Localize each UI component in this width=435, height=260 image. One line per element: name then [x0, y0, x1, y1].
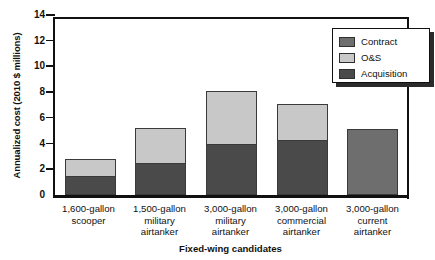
y-axis-title: Annualized cost (2010 $ millions) [11, 6, 22, 206]
x-axis-tick-label: 3,000-galloncommercialairtanker [266, 203, 337, 238]
bar-column[interactable] [126, 18, 197, 195]
x-axis-tick-label-line: commercial [266, 215, 337, 227]
x-axis-tick-label-line: current [337, 215, 408, 227]
legend-swatch-icon [339, 53, 355, 63]
bar-segment-acquisition[interactable] [277, 140, 328, 195]
y-axis-tick-mark [46, 40, 55, 42]
y-axis-tick-label: 10 [21, 59, 45, 72]
bar-segment-acquisition[interactable] [135, 163, 186, 195]
stacked-bar[interactable] [277, 104, 328, 195]
legend-swatch-icon [339, 37, 355, 47]
bar-segment-acquisition[interactable] [65, 176, 116, 195]
bar-chart: Annualized cost (2010 $ millions) 024681… [0, 0, 435, 260]
y-axis-tick-label: 14 [21, 8, 45, 21]
x-axis-tick-label-line: military [195, 215, 266, 227]
legend-item[interactable]: Contract [339, 34, 429, 49]
bar-segment-contract[interactable] [347, 129, 398, 195]
x-axis-tick-label-line: 1,500-gallon [124, 203, 195, 215]
x-axis-tick-label-line: airtanker [124, 226, 195, 238]
y-axis-tick-label: 2 [21, 162, 45, 175]
bar-column[interactable] [267, 18, 338, 195]
bar-column[interactable] [55, 18, 126, 195]
x-axis-tick-label-line: 3,000-gallon [195, 203, 266, 215]
bar-segment-acquisition[interactable] [206, 144, 257, 195]
x-axis-tick-label-line: 3,000-gallon [337, 203, 408, 215]
bar-column[interactable] [196, 18, 267, 195]
y-axis-tick-mark [46, 14, 55, 16]
x-axis-tick-label-line: airtanker [337, 226, 408, 238]
x-axis-tick-label-line: military [124, 215, 195, 227]
legend-swatch-icon [339, 69, 355, 79]
legend-item-label: Acquisition [361, 68, 407, 79]
y-axis-tick-label: 12 [21, 34, 45, 47]
x-axis-tick-label-line: 1,600-gallon [53, 203, 124, 215]
y-axis-tick-label: 6 [21, 111, 45, 124]
y-axis-tick-mark [46, 117, 55, 119]
bar-segment-oands[interactable] [277, 104, 328, 139]
x-axis-tick-label: 3,000-gallonmilitaryairtanker [195, 203, 266, 238]
x-axis-tick-label: 1,600-gallonscooper [53, 203, 124, 238]
x-axis-tick-label-line: scooper [53, 215, 124, 227]
stacked-bar[interactable] [135, 128, 186, 195]
y-axis-tick-label: 8 [21, 85, 45, 98]
legend-item[interactable]: O&S [339, 50, 429, 65]
bar-segment-oands[interactable] [135, 128, 186, 163]
x-axis-tick-label: 3,000-galloncurrentairtanker [337, 203, 408, 238]
bar-segment-oands[interactable] [206, 91, 257, 144]
legend-item-label: Contract [361, 36, 397, 47]
bar-segment-oands[interactable] [65, 159, 116, 176]
x-axis-title: Fixed-wing candidates [53, 243, 408, 254]
stacked-bar[interactable] [347, 129, 398, 195]
x-axis-tick-labels: 1,600-gallonscooper1,500-gallonmilitarya… [53, 203, 408, 238]
legend-item-label: O&S [361, 52, 381, 63]
stacked-bar[interactable] [65, 159, 116, 195]
legend-item[interactable]: Acquisition [339, 66, 429, 81]
y-axis-tick-mark [46, 65, 55, 67]
y-axis-tick-mark [46, 168, 55, 170]
x-axis-tick-label-line: airtanker [195, 226, 266, 238]
y-axis-tick-label: 0 [21, 188, 45, 201]
stacked-bar[interactable] [206, 91, 257, 195]
y-axis-tick-label: 4 [21, 137, 45, 150]
y-axis-tick-mark [46, 91, 55, 93]
chart-legend: ContractO&SAcquisition [332, 28, 430, 83]
x-axis-tick-label: 1,500-gallonmilitaryairtanker [124, 203, 195, 238]
x-axis-tick-label-line: 3,000-gallon [266, 203, 337, 215]
x-axis-tick-label-line: airtanker [266, 226, 337, 238]
y-axis-tick-mark [46, 143, 55, 145]
